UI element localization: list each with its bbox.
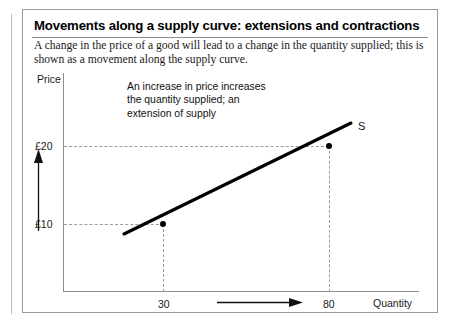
price-increase-arrow-icon — [33, 149, 44, 231]
y-axis-title: Price — [37, 73, 61, 85]
x-axis-line — [63, 291, 419, 292]
supply-curve-chart: Price Quantity £20 £10 30 80 S An increa… — [23, 10, 439, 314]
quantity-increase-arrow-icon — [217, 297, 303, 308]
guide-line-quantity-30 — [163, 224, 164, 292]
y-axis-line — [63, 73, 64, 292]
page-edge-line — [11, 14, 12, 314]
data-point-30-10 — [160, 221, 166, 227]
supply-curve-line — [23, 10, 439, 314]
supply-curve-label: S — [358, 120, 365, 132]
guide-line-price-10 — [64, 224, 164, 225]
price-increase-annotation: An increase in price increases the quant… — [127, 80, 267, 120]
figure-container: Movements along a supply curve: extensio… — [22, 9, 438, 313]
x-tick-label-80: 80 — [323, 298, 335, 310]
guide-line-quantity-80 — [329, 146, 330, 292]
x-tick-label-30: 30 — [158, 298, 170, 310]
guide-line-price-20 — [64, 146, 329, 147]
data-point-80-20 — [326, 143, 332, 149]
x-axis-title: Quantity — [373, 297, 412, 309]
